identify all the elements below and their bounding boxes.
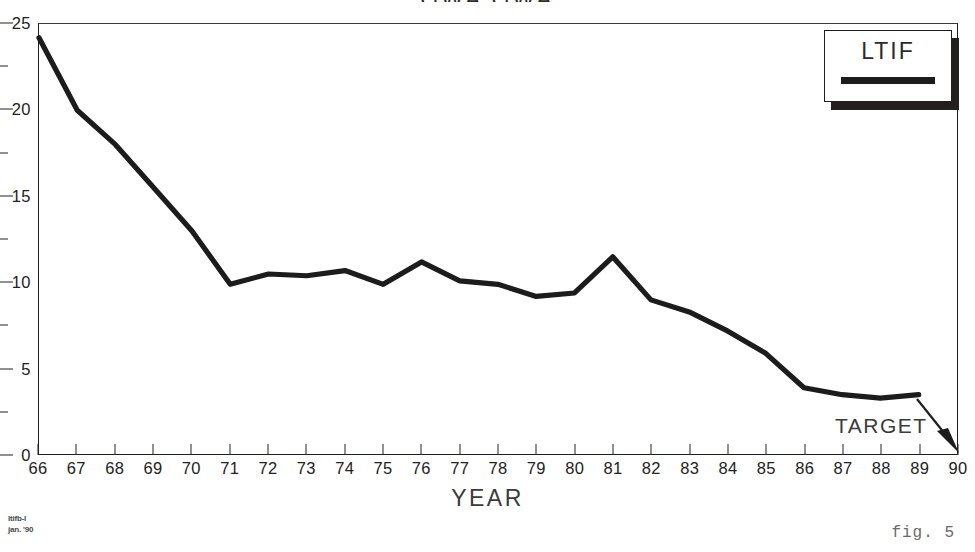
y-axis-tick-label: 10 (12, 273, 31, 292)
x-axis-tick (536, 444, 537, 455)
x-axis-tick-label: 66 (29, 459, 48, 478)
x-axis-tick-label: 71 (220, 459, 239, 478)
x-axis-tick (804, 444, 805, 455)
plot-area (38, 23, 958, 455)
legend: LTIF (824, 30, 952, 102)
y-axis-tick-label: 20 (12, 100, 31, 119)
x-axis-tick-label: 83 (680, 459, 699, 478)
y-axis-minor-tick (0, 152, 8, 153)
x-axis-tick-label: 80 (565, 459, 584, 478)
footer-code-line2: jan. '90 (8, 524, 33, 535)
x-axis-tick (268, 444, 269, 455)
x-axis-tick (613, 444, 614, 455)
x-axis-tick-label: 86 (795, 459, 814, 478)
legend-line-swatch (841, 77, 935, 84)
x-axis-tick-label: 90 (949, 459, 968, 478)
x-axis-tick-label: 69 (144, 459, 163, 478)
x-axis-tick-label: 72 (259, 459, 278, 478)
x-axis-tick-label: 73 (297, 459, 316, 478)
legend-item-label: LTIF (825, 38, 951, 65)
y-axis-minor-tick (0, 325, 8, 326)
x-axis-tick-label: 76 (412, 459, 431, 478)
x-axis-tick (153, 444, 154, 455)
x-axis-tick (38, 444, 39, 455)
chart-page: GWA GWA 0510152025 666768697071727374757… (0, 0, 975, 552)
target-annotation-label: TARGET (835, 414, 928, 438)
x-axis-tick (498, 444, 499, 455)
y-axis-tick (0, 368, 13, 369)
x-axis-tick-label: 78 (489, 459, 508, 478)
x-axis-tick-label: 79 (527, 459, 546, 478)
x-axis-tick-label: 88 (872, 459, 891, 478)
x-axis-tick (383, 444, 384, 455)
x-axis-tick (728, 444, 729, 455)
x-axis-tick-label: 70 (182, 459, 201, 478)
footer-code: ltifb-l jan. '90 (8, 513, 33, 535)
x-axis-tick (344, 444, 345, 455)
x-axis-tick-label: 67 (67, 459, 86, 478)
y-axis-tick (0, 455, 13, 456)
y-axis-minor-tick (0, 411, 8, 412)
x-axis-tick-label: 89 (910, 459, 929, 478)
x-axis-tick-label: 74 (335, 459, 354, 478)
x-axis-tick (229, 444, 230, 455)
y-axis-tick-label: 5 (21, 359, 31, 378)
y-axis-minor-tick (0, 66, 8, 67)
x-axis-tick (651, 444, 652, 455)
x-axis-tick-label: 77 (450, 459, 469, 478)
x-axis-tick (459, 444, 460, 455)
y-axis-tick-label: 15 (12, 186, 31, 205)
y-axis-tick-label: 25 (12, 14, 31, 33)
x-axis-tick-label: 81 (604, 459, 623, 478)
x-axis-tick-label: 68 (105, 459, 124, 478)
x-axis-tick-label: 87 (834, 459, 853, 478)
legend-box: LTIF (824, 30, 952, 102)
y-axis-minor-tick (0, 239, 8, 240)
x-axis-title: YEAR (0, 485, 975, 512)
x-axis-tick-label: 85 (757, 459, 776, 478)
plot-inner (39, 24, 957, 454)
x-axis-tick (574, 444, 575, 455)
x-axis-tick (114, 444, 115, 455)
target-arrow-icon (915, 395, 965, 457)
y-axis-labels: 0510152025 (0, 0, 38, 478)
x-axis-tick (766, 444, 767, 455)
series-ltif (39, 24, 957, 455)
x-axis-tick (881, 444, 882, 455)
x-axis-tick (306, 444, 307, 455)
x-axis-tick-label: 84 (719, 459, 738, 478)
figure-label: fig. 5 (891, 524, 955, 542)
x-axis-tick (76, 444, 77, 455)
x-axis-tick-label: 82 (642, 459, 661, 478)
footer-code-line1: ltifb-l (8, 513, 33, 524)
x-axis-tick (689, 444, 690, 455)
x-axis-tick (421, 444, 422, 455)
x-axis-tick (843, 444, 844, 455)
x-axis-tick (191, 444, 192, 455)
x-axis-tick-label: 75 (374, 459, 393, 478)
chart-title: GWA GWA (0, 0, 975, 2)
